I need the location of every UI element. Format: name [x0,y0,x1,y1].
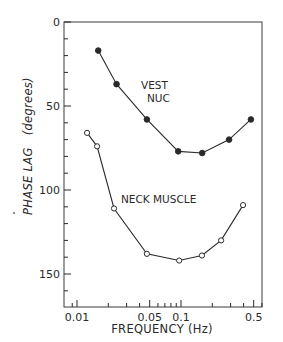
filled-circle-marker [175,149,181,155]
open-circle-marker [144,251,149,256]
open-circle-marker [84,130,89,135]
x-axis-title: FREQUENCY (Hz) [111,322,213,336]
series-label-vest-line2: NUC [147,92,170,104]
filled-circle-marker [95,48,101,54]
filled-circle-marker [199,150,205,156]
y-axis-title-main: PHASE LAG [21,147,35,215]
y-tick-label: 0 [53,16,60,29]
data-series [84,48,253,263]
y-tick-label: 100 [39,184,60,197]
y-tick-label: 50 [46,100,60,113]
open-circle-marker [94,144,99,149]
filled-circle-marker [248,117,254,123]
phase-lag-chart: 050100150 0.010.050.10.5 FREQUENCY (Hz) … [0,0,283,342]
x-tick-label: 0.5 [245,311,263,324]
y-axis-title: PHASE LAG (degrees) [21,77,35,215]
x-axis-ticks: 0.010.050.10.5 [65,300,263,324]
filled-circle-marker [144,117,150,123]
y-axis-ticks: 050100150 [39,16,71,291]
open-circle-marker [111,206,116,211]
open-circle-marker [177,258,182,263]
series-label-neck: NECK MUSCLE [121,193,196,205]
plot-frame [64,22,262,307]
speck-mark [13,212,15,214]
svg-text:PHASE LAG (degrees): PHASE LAG (degrees) [21,77,35,215]
filled-circle-marker [226,137,232,143]
series-label-vest-line1: VEST [141,79,168,91]
open-circle-marker [240,203,245,208]
x-tick-label: 0.01 [65,311,90,324]
open-circle-marker [199,253,204,258]
y-axis-title-units: (degrees) [21,77,35,135]
filled-circle-marker [114,81,120,87]
y-tick-label: 150 [39,268,60,281]
open-circle-marker [219,238,224,243]
